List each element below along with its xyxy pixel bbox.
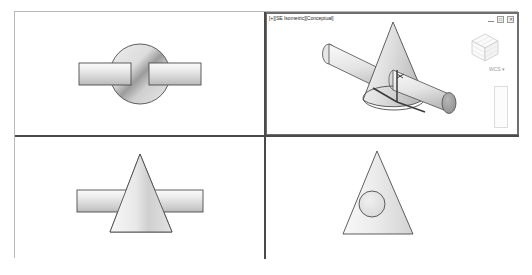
- navigation-bar[interactable]: [494, 86, 508, 128]
- top-view-geometry: [15, 12, 265, 136]
- viewport-se-isometric[interactable]: [+][SE Isometric][Conceptual] □ ✕: [265, 12, 519, 136]
- viewport-front[interactable]: [15, 136, 265, 259]
- wcs-text: WCS: [489, 66, 501, 72]
- viewport-divider-vertical[interactable]: [264, 12, 266, 259]
- drawing-area-frame: [+][SE Isometric][Conceptual] □ ✕: [14, 11, 518, 258]
- viewport-right-side[interactable]: [265, 136, 519, 259]
- viewport-top-left[interactable]: [15, 12, 265, 136]
- autocad-model-space: [+][SE Isometric][Conceptual] □ ✕: [0, 0, 532, 275]
- front-view-geometry: [15, 136, 265, 259]
- side-view-geometry: [265, 136, 519, 259]
- view-cube-icon[interactable]: [467, 31, 503, 65]
- wcs-coordinate-label[interactable]: WCS ▾: [489, 66, 505, 72]
- chevron-down-icon: ▾: [502, 66, 505, 72]
- viewport-divider-horizontal[interactable]: [15, 135, 519, 137]
